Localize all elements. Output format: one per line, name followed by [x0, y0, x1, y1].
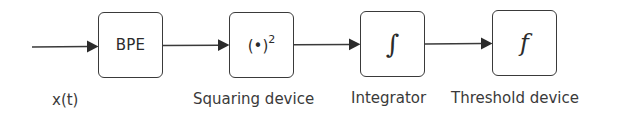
integral-icon: ∫ [386, 31, 400, 57]
threshold-device-block: f [492, 10, 557, 76]
block-diagram: BPE (•)2 ∫ f x(t) Squaring device Integr… [0, 0, 632, 117]
arrow-integrator-to-threshold [425, 38, 493, 50]
integrator-block: ∫ [360, 11, 425, 77]
exponent: 2 [268, 33, 275, 46]
squaring-device-block: (•)2 [229, 12, 294, 78]
squaring-device-label: Squaring device [193, 92, 314, 107]
input-signal-label: x(t) [52, 93, 78, 108]
square-operator-symbol: (•)2 [248, 36, 276, 54]
integrator-label: Integrator [351, 91, 426, 106]
arrow-bpe-to-squaring [163, 39, 230, 51]
function-f-icon: f [520, 31, 529, 55]
threshold-device-label: Threshold device [451, 91, 579, 106]
arrow-squaring-to-integrator [294, 38, 361, 50]
bpe-symbol: BPE [116, 38, 145, 53]
bpe-block: BPE [98, 12, 163, 78]
arrow-input-to-bpe [32, 41, 99, 53]
